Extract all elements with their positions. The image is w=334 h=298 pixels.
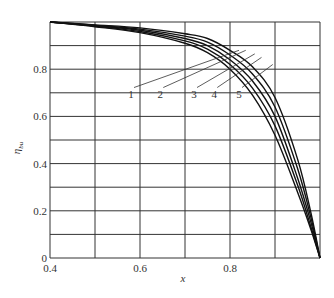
y-axis-label: ηbu bbox=[10, 141, 25, 154]
curve-label: 1 bbox=[128, 88, 134, 100]
x-tick-label: 0.8 bbox=[223, 262, 237, 274]
curve-label: 3 bbox=[191, 88, 197, 100]
y-tick-label: 0.4 bbox=[33, 158, 47, 170]
efficiency-chart: 12345 0.40.60.8 00.20.40.60.8 x ηbu bbox=[0, 0, 334, 298]
y-tick-label: 0.6 bbox=[33, 110, 47, 122]
curve-label: 4 bbox=[212, 88, 218, 100]
curve-label: 2 bbox=[158, 88, 164, 100]
curve-label: 5 bbox=[236, 88, 242, 100]
grid bbox=[50, 22, 320, 258]
y-tick-label: 0.8 bbox=[33, 63, 47, 75]
svg-text:ηbu: ηbu bbox=[10, 141, 25, 154]
y-tick-labels: 00.20.40.60.8 bbox=[33, 63, 47, 264]
y-tick-label: 0 bbox=[42, 252, 48, 264]
x-axis-label: x bbox=[180, 272, 186, 284]
y-tick-label: 0.2 bbox=[33, 205, 47, 217]
x-tick-label: 0.6 bbox=[133, 262, 147, 274]
x-tick-labels: 0.40.60.8 bbox=[43, 262, 237, 274]
